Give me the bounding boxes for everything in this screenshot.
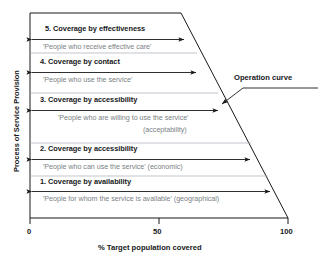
level-2-description: 'People who can use the service' (econom… (43, 162, 183, 171)
level-3-description: 'People who are willing to use the servi… (58, 113, 188, 122)
level-1-description: 'People for whom the service is availabl… (43, 194, 219, 203)
level-4-description: 'People who use the service' (43, 75, 132, 84)
level-3-description-line2: (acceptability) (143, 125, 187, 134)
level-1-heading: 1. Coverage by availability (40, 177, 131, 186)
x-axis-label: % Target population covered (98, 243, 202, 252)
level-2-heading: 2. Coverage by accessibility (40, 144, 137, 153)
x-tick-0: 0 (27, 227, 31, 236)
x-tick-50: 50 (153, 227, 161, 236)
level-5-heading: 5. Coverage by effectiveness (45, 24, 145, 33)
operation-curve-label: Operation curve (234, 73, 292, 82)
coverage-diagram: Process of Service Provision 5. Coverage… (0, 0, 318, 267)
y-axis-label: Process of Service Provision (12, 70, 21, 172)
operation-curve-leader (222, 88, 318, 104)
level-3-heading: 3. Coverage by accessibility (40, 95, 137, 104)
x-axis (30, 218, 288, 224)
x-tick-100: 100 (280, 227, 293, 236)
level-5-description: 'People who receive effective care' (43, 42, 151, 51)
level-4-heading: 4. Coverage by contact (40, 57, 120, 66)
